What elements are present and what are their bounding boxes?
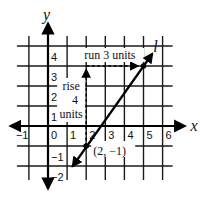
coordinate-plane: xy −101234564321−1−2 (2, −1)rise4unitsru… [0, 0, 200, 197]
x-tick-label: 0 [51, 129, 57, 141]
y-tick-label: 1 [51, 111, 57, 123]
x-tick-label: 1 [70, 129, 76, 141]
y-tick-label: −2 [51, 171, 64, 183]
annotations: (2, −1)rise4unitsrun 3 units [57, 48, 146, 158]
x-tick-label: 5 [147, 129, 153, 141]
x-axis-label: x [190, 117, 198, 134]
y-tick-label: 2 [51, 91, 57, 103]
axes: xy [11, 6, 198, 188]
tick-labels: −101234564321−1−2 [16, 51, 172, 183]
y-tick-label: 3 [51, 71, 57, 83]
y-tick-label: −1 [51, 151, 64, 163]
rise-label: units [59, 107, 83, 121]
y-axis-label: y [41, 6, 51, 24]
x-tick-label: −1 [16, 129, 29, 141]
rise-label: 4 [72, 93, 78, 107]
line-label: l [153, 38, 158, 55]
run-label: run 3 units [84, 48, 136, 62]
x-tick-label: 4 [127, 129, 133, 141]
y-tick-label: 4 [51, 51, 57, 63]
rise-label: rise [62, 79, 79, 93]
point-label: (2, −1) [93, 144, 126, 158]
x-tick-label: 6 [166, 129, 172, 141]
x-tick-label: 3 [108, 129, 114, 141]
